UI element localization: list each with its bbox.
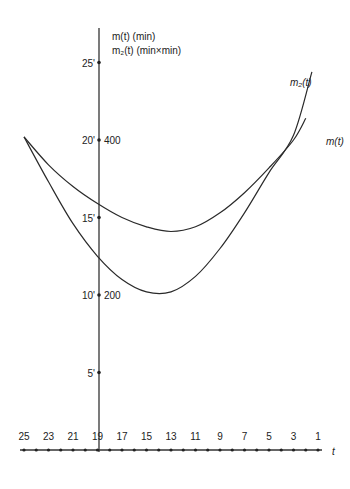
chart: 252321191715131197531t5'10'15'20'25'2004… [0,0,350,489]
x-tick-dot [84,448,87,451]
x-tick-label: 5 [266,431,272,442]
x-tick-label: 1 [315,431,321,442]
x-tick-dot [182,448,185,451]
labels: 252321191715131197531t5'10'15'20'25'2004… [18,31,343,457]
y-tick-label: 5' [88,368,96,379]
y-right-tick-label: 400 [104,135,121,146]
curve-m [24,118,306,231]
x-tick-label: 7 [242,431,248,442]
y-right-tick-label: 200 [104,290,121,301]
curve-m2 [24,72,312,294]
x-tick-label: 11 [190,431,201,442]
x-tick-dot [47,448,50,451]
x-tick-dot [133,448,136,451]
x-tick-dot [243,448,246,451]
x-tick-dot [22,448,25,451]
series-label-m2: m₂(t) [290,77,312,88]
x-tick-label: 17 [116,431,128,442]
x-tick-dot [267,448,270,451]
x-tick-label: 3 [291,431,297,442]
series-label-m: m(t) [326,136,344,147]
x-tick-label: 25 [18,431,30,442]
x-tick-dot [231,448,234,451]
y-axis-title-line2: m₂(t) (min×min) [112,45,181,56]
x-tick-dot [145,448,148,451]
x-tick-label: 9 [217,431,223,442]
x-tick-dot [218,448,221,451]
x-tick-dot [255,448,258,451]
y-axis-title-line1: m(t) (min) [112,31,155,42]
x-tick-dot [108,448,111,451]
curves [24,72,312,294]
x-tick-dot [304,448,307,451]
x-tick-label: 15 [141,431,153,442]
y-tick-dot [97,371,101,375]
y-tick-label: 10' [82,290,95,301]
x-tick-dot [280,448,283,451]
y-tick-dot [97,293,101,297]
x-tick-dot [206,448,209,451]
y-tick-label: 20' [82,135,95,146]
x-axis-label: t [332,446,336,457]
x-tick-dot [194,448,197,451]
x-tick-dot [292,448,295,451]
x-tick-dot [35,448,38,451]
x-tick-label: 19 [92,431,104,442]
x-tick-dot [59,448,62,451]
x-tick-dot [120,448,123,451]
x-tick-dot [71,448,74,451]
axes [20,28,322,452]
y-tick-label: 25' [82,58,95,69]
x-tick-label: 23 [43,431,55,442]
x-tick-label: 21 [67,431,79,442]
y-tick-dot [97,61,101,65]
x-tick-dot [157,448,160,451]
x-tick-dot [169,448,172,451]
x-tick-dot [316,448,319,451]
y-tick-label: 15' [82,213,95,224]
y-tick-dot [97,216,101,220]
x-tick-dot [96,448,99,451]
x-tick-label: 13 [165,431,177,442]
y-tick-dot [97,138,101,142]
